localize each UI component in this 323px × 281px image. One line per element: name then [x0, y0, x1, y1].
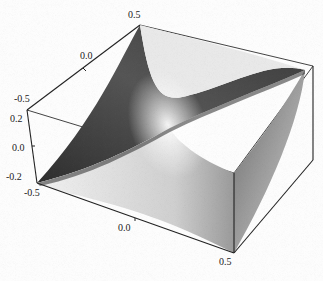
z-axis-top: 0.2: [10, 113, 23, 124]
back-axis-min: -0.5: [14, 93, 30, 104]
back-axis-max: 0.5: [128, 9, 141, 20]
surface: [0, 0, 323, 281]
z-axis-bottom: -0.2: [6, 171, 22, 182]
back-axis-mid: 0.0: [80, 50, 93, 61]
front-axis-min: -0.5: [24, 187, 40, 198]
surface-plot: 0.5 0.0 -0.5 0.2 0.0 -0.2 -0.5 0.0 0.5: [0, 0, 323, 281]
front-axis-max: 0.5: [219, 256, 232, 267]
z-axis-mid: 0.0: [12, 142, 25, 153]
front-axis-mid: 0.0: [118, 222, 131, 233]
